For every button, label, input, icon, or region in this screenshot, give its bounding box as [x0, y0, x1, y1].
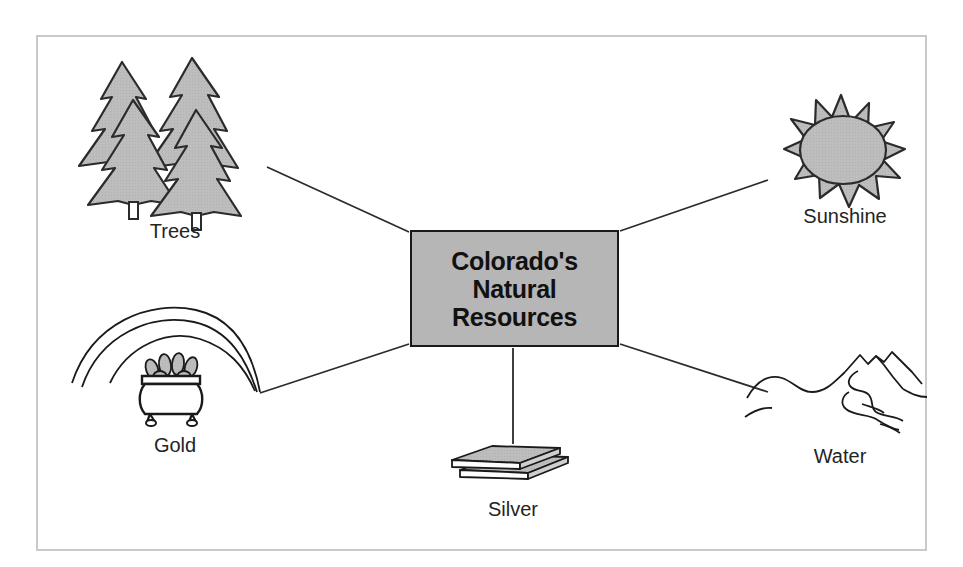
node-label-silver: Silver [428, 498, 598, 520]
node-label-water: Water [725, 445, 955, 467]
node-sunshine-illustration[interactable] [782, 95, 900, 195]
node-label-sunshine: Sunshine [730, 205, 960, 227]
node-gold-illustration[interactable] [70, 320, 265, 430]
node-water-illustration[interactable] [745, 355, 925, 435]
node-silver-illustration[interactable] [445, 445, 575, 493]
center-concept-box[interactable]: Colorado's Natural Resources [410, 230, 619, 347]
diagram-canvas: Colorado's Natural Resources Trees Sunsh… [0, 0, 963, 567]
node-trees-illustration[interactable] [75, 52, 255, 217]
node-label-gold: Gold [100, 434, 250, 456]
center-line-3: Resources [452, 303, 577, 331]
center-line-2: Natural [472, 275, 556, 303]
center-line-1: Colorado's [451, 247, 578, 275]
node-label-trees: Trees [100, 220, 250, 242]
